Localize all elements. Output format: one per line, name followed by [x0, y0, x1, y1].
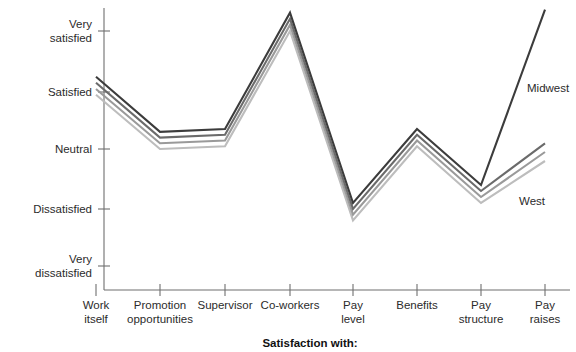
- series-label-midwest: Midwest: [527, 82, 570, 94]
- x-tick-label: raises: [530, 313, 561, 325]
- y-tick-label: dissatisfied: [35, 267, 92, 279]
- y-tick-label: Very: [69, 18, 92, 30]
- x-tick-label: structure: [459, 313, 504, 325]
- x-tick-label: Supervisor: [198, 299, 253, 311]
- series-label-west: West: [519, 195, 546, 207]
- y-tick-label: Very: [69, 253, 92, 265]
- x-tick-label: Benefits: [396, 299, 438, 311]
- x-tick-label: itself: [84, 313, 108, 325]
- y-tick-label: Satisfied: [48, 86, 92, 98]
- line-chart-canvas: VerysatisfiedSatisfiedNeutralDissatisfie…: [0, 0, 576, 352]
- series-line: [96, 10, 545, 203]
- series-line: [96, 19, 545, 209]
- x-tick-label: Pay: [471, 299, 491, 311]
- y-tick-label: Neutral: [55, 143, 92, 155]
- x-tick-label: opportunities: [127, 313, 193, 325]
- y-axis-tick-labels: VerysatisfiedSatisfiedNeutralDissatisfie…: [33, 18, 92, 279]
- x-tick-label: level: [341, 313, 365, 325]
- series-line: [96, 25, 545, 215]
- x-tick-label: Pay: [535, 299, 555, 311]
- series-line: [96, 31, 545, 220]
- x-tick-label: Promotion: [134, 299, 186, 311]
- x-tick-label: Work: [83, 299, 110, 311]
- x-axis-tick-labels: WorkitselfPromotionopportunitiesSupervis…: [83, 299, 561, 325]
- data-series-group: [96, 10, 545, 221]
- x-axis-caption: Satisfaction with:: [262, 337, 357, 349]
- x-tick-label: Co-workers: [261, 299, 320, 311]
- y-tick-label: satisfied: [50, 32, 92, 44]
- y-tick-label: Dissatisfied: [33, 203, 92, 215]
- x-tick-label: Pay: [343, 299, 363, 311]
- chart-figure: VerysatisfiedSatisfiedNeutralDissatisfie…: [0, 0, 576, 352]
